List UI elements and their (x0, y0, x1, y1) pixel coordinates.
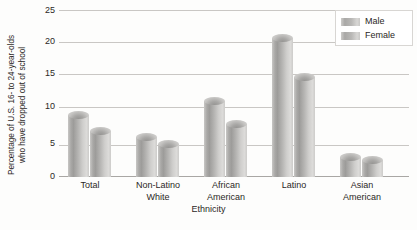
bar-total-male[interactable] (68, 115, 89, 177)
x-tick-label-asian-american: Asian American (317, 180, 407, 203)
legend-entry-male[interactable]: Male (341, 15, 407, 28)
bar-asian-american-female[interactable] (362, 160, 383, 177)
chart-legend: Male Female (335, 10, 413, 46)
gridline-15 (59, 74, 409, 75)
y-axis-title-line-2: who have dropped out of school (17, 12, 28, 198)
legend-entry-female[interactable]: Female (341, 29, 407, 42)
y-tick-label-20: 20 (35, 37, 55, 46)
bar-cap-icon (340, 153, 361, 161)
bar-non-latino-white-female[interactable] (158, 144, 179, 177)
bar-cap-icon (90, 127, 111, 135)
legend-swatch-female-icon (341, 32, 360, 40)
bar-african-american-female[interactable] (226, 124, 247, 177)
bar-asian-american-male[interactable] (340, 157, 361, 177)
bar-cap-icon (136, 133, 157, 141)
y-tick-label-10: 10 (35, 102, 55, 111)
bar-total-female[interactable] (90, 131, 111, 177)
bar-cap-icon (204, 97, 225, 105)
legend-label-female: Female (365, 31, 395, 40)
gridline-10 (59, 107, 409, 108)
y-axis-tick-labels: 25 20 15 10 5 0 (33, 10, 59, 177)
x-tick-label-asian-american-line-2: American (317, 192, 407, 204)
bar-non-latino-white-male[interactable] (136, 137, 157, 177)
x-tick-label-african-american-line-2: American (181, 192, 271, 204)
y-tick-label-15: 15 (35, 69, 55, 78)
bar-cap-icon (226, 120, 247, 128)
y-axis-title-line-1: Percentage of U.S. 16- to 24-year-olds (6, 12, 17, 198)
bar-african-american-male[interactable] (204, 101, 225, 177)
bar-cap-icon (362, 156, 383, 164)
y-tick-label-5: 5 (35, 139, 55, 148)
bar-cap-icon (158, 140, 179, 148)
bar-cap-icon (68, 111, 89, 119)
x-tick-label-asian-american-line-1: Asian (317, 180, 407, 192)
bar-latino-male[interactable] (272, 38, 293, 177)
legend-swatch-male-icon (341, 18, 360, 26)
y-tick-label-25: 25 (35, 6, 55, 15)
x-axis-title: Ethnicity (0, 204, 417, 214)
bar-cap-icon (272, 34, 293, 42)
legend-label-male: Male (365, 17, 385, 26)
bar-cap-icon (294, 73, 315, 81)
bar-latino-female[interactable] (294, 77, 315, 177)
dropout-rate-bar-chart: Percentage of U.S. 16- to 24-year-olds w… (0, 0, 417, 230)
